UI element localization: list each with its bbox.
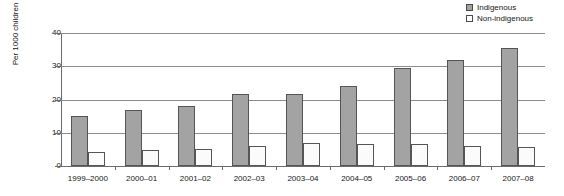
bar-indigenous xyxy=(232,94,249,166)
bar-indigenous xyxy=(394,68,411,166)
bar-non-indigenous xyxy=(411,144,428,166)
bar-group xyxy=(340,33,374,166)
x-tick-mark xyxy=(384,166,385,170)
bar-indigenous xyxy=(178,106,195,166)
bar-group xyxy=(125,33,159,166)
bar-group xyxy=(178,33,212,166)
bar-non-indigenous xyxy=(195,149,212,166)
chart-legend: Indigenous Non-indigenous xyxy=(466,3,533,23)
bar-indigenous xyxy=(71,116,88,166)
x-tick-label: 1999–2000 xyxy=(61,174,115,184)
bar-group xyxy=(394,33,428,166)
x-tick-label: 2003–04 xyxy=(276,174,330,184)
x-tick-mark xyxy=(437,166,438,170)
x-tick-label: 2005–06 xyxy=(384,174,438,184)
bar-non-indigenous xyxy=(88,152,105,166)
x-tick-mark xyxy=(276,166,277,170)
x-tick-label: 2000–01 xyxy=(115,174,169,184)
x-tick-mark xyxy=(222,166,223,170)
x-tick-mark xyxy=(491,166,492,170)
bar-group xyxy=(286,33,320,166)
x-tick-mark xyxy=(115,166,116,170)
bar-non-indigenous xyxy=(464,146,481,166)
x-tick-label: 2002–03 xyxy=(222,174,276,184)
legend-item-non-indigenous: Non-indigenous xyxy=(466,14,533,23)
legend-swatch-indigenous xyxy=(466,4,473,11)
bar-non-indigenous xyxy=(249,146,266,166)
bar-indigenous xyxy=(447,60,464,166)
y-axis-ticks: 010203040 xyxy=(0,33,61,166)
bar-non-indigenous xyxy=(303,143,320,166)
legend-item-indigenous: Indigenous xyxy=(466,3,533,12)
x-tick-label: 2001–02 xyxy=(169,174,223,184)
bar-non-indigenous xyxy=(357,144,374,166)
x-tick-mark xyxy=(330,166,331,170)
bar-indigenous xyxy=(286,94,303,166)
x-tick-mark xyxy=(169,166,170,170)
bar-indigenous xyxy=(340,86,357,166)
bar-non-indigenous xyxy=(518,147,535,166)
bar-group xyxy=(447,33,481,166)
x-tick-label: 2006–07 xyxy=(437,174,491,184)
x-axis-labels: 1999–20002000–012001–022002–032003–04200… xyxy=(61,174,545,186)
bar-indigenous xyxy=(501,48,518,166)
legend-swatch-non-indigenous xyxy=(466,15,473,22)
legend-label-indigenous: Indigenous xyxy=(477,3,516,12)
x-axis-line xyxy=(56,166,545,167)
plot-area xyxy=(61,33,545,166)
x-tick-label: 2007–08 xyxy=(491,174,545,184)
x-tick-label: 2004–05 xyxy=(330,174,384,184)
bar-chart: Indigenous Non-indigenous Per 1000 child… xyxy=(0,0,564,196)
bar-non-indigenous xyxy=(142,150,159,166)
bar-indigenous xyxy=(125,110,142,166)
bar-group xyxy=(501,33,535,166)
bar-group xyxy=(71,33,105,166)
bar-group xyxy=(232,33,266,166)
legend-label-non-indigenous: Non-indigenous xyxy=(477,14,533,23)
